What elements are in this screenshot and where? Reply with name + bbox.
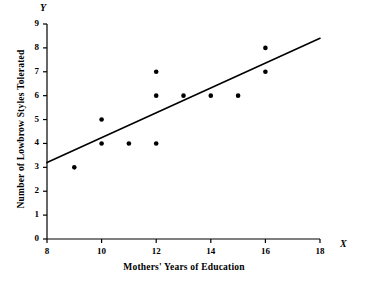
- y-tick-label: 2: [23, 185, 39, 195]
- y-tick-label: 3: [23, 161, 39, 171]
- data-point: [236, 93, 241, 98]
- y-tick-label: 7: [23, 66, 39, 76]
- x-tick-label: 16: [253, 246, 277, 256]
- regression-line: [47, 38, 320, 162]
- data-point: [127, 141, 132, 146]
- x-tick-label: 18: [308, 246, 332, 256]
- y-tick-label: 6: [23, 90, 39, 100]
- y-tick-label: 9: [23, 18, 39, 28]
- data-point: [154, 93, 159, 98]
- data-point: [99, 141, 104, 146]
- trend-line: [47, 38, 320, 162]
- data-point: [181, 93, 186, 98]
- y-tick-label: 5: [23, 114, 39, 124]
- scatter-chart: Y X Number of Lowbrow Styles Tolerated M…: [0, 0, 366, 285]
- data-point: [209, 93, 214, 98]
- data-point: [154, 141, 159, 146]
- data-point: [154, 69, 159, 74]
- x-tick-label: 8: [35, 246, 59, 256]
- data-point: [72, 165, 77, 170]
- y-tick-label: 1: [23, 209, 39, 219]
- x-tick-label: 14: [199, 246, 223, 256]
- y-tick-label: 0: [23, 233, 39, 243]
- x-tick-label: 12: [144, 246, 168, 256]
- data-point: [263, 46, 268, 51]
- data-points: [72, 46, 268, 170]
- plot-area: [0, 0, 366, 285]
- data-point: [99, 117, 104, 122]
- x-tick-label: 10: [90, 246, 114, 256]
- y-tick-label: 8: [23, 42, 39, 52]
- y-tick-label: 4: [23, 137, 39, 147]
- data-point: [263, 69, 268, 74]
